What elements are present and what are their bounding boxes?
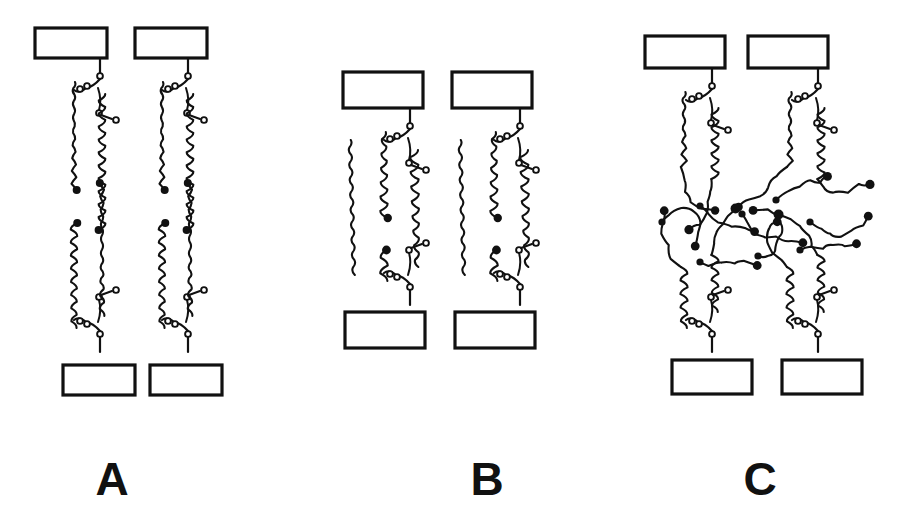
- panel-b-lipid-unit-2-upper-head-ester-oxygen-2: [497, 136, 503, 142]
- panel-c-free-chain-origin-methyl-5: [806, 218, 813, 225]
- panel-a-lipid-unit-2-lower-chain-sn1-terminal-methyl: [161, 219, 169, 227]
- panel-c-free-chain-origin-methyl-4: [772, 196, 779, 203]
- panel-c-lipid-unit-1-upper-head-ester-oxygen-1: [696, 93, 702, 99]
- panel-label-a: A: [95, 453, 128, 505]
- panel-c-lipid-unit-2-upper-head-ester-oxygen-1: [802, 93, 808, 99]
- panel-a-lipid-unit-1-lower-chain-sn2-terminal-methyl: [96, 179, 104, 187]
- panel-b-lipid-unit-2-lower-chain-sn1-terminal-methyl: [492, 246, 501, 255]
- panel-c-lipid-unit-1-upper-chain-sn2-terminal-methyl: [684, 225, 693, 234]
- panel-c-free-chain-origin-methyl-3: [738, 210, 745, 217]
- figure-root: ABC: [0, 0, 899, 532]
- panel-c-top-surface-block-1: [645, 36, 725, 68]
- panel-b-lipid-unit-1-lower-head-ester-oxygen-2: [387, 271, 393, 277]
- panel-c-bottom-surface-block-1: [672, 360, 752, 394]
- panel-c-lipid-unit-1-upper-head-carbonyl-oxygen-b: [725, 127, 731, 133]
- panel-c-lipid-unit-2-lower-head-ester-oxygen-1: [802, 321, 808, 327]
- panel-a-lipid-unit-1-lower-chain-sn1-terminal-methyl: [73, 219, 81, 227]
- panel-c-bottom-surface-block-2: [782, 360, 862, 394]
- panel-b-lipid-unit-1-upper-head-ester-oxygen-1: [394, 133, 400, 139]
- panel-label-c: C: [743, 453, 776, 505]
- panel-c-free-chain-origin-methyl-2: [696, 202, 703, 209]
- panel-b-lipid-unit-1-lower-chain-sn1-terminal-methyl: [382, 246, 391, 255]
- panel-b-lipid-unit-2-lower-head-carbonyl-oxygen-b: [533, 240, 539, 246]
- panel-b-lipid-unit-1-lower-head-carbonyl-oxygen-b: [423, 240, 429, 246]
- panel-c-free-chain-origin-methyl-7: [754, 252, 761, 259]
- panel-a-top-surface-block-1: [35, 28, 107, 58]
- panel-a-lipid-unit-2-lower-head-ester-oxygen-2: [165, 318, 171, 324]
- panel-b-top-surface-block-1: [343, 72, 423, 108]
- panel-a-top-surface-block-2: [135, 28, 207, 58]
- panel-a-lipid-unit-2-lower-head-ester-oxygen-1: [172, 321, 178, 327]
- panel-c-free-chain-terminal-methyl-7: [749, 206, 758, 215]
- panel-a-lipid-unit-1-lower-head-carbonyl-oxygen-b: [113, 287, 119, 293]
- panel-c-lipid-unit-2-lower-head-ester-oxygen-2: [795, 318, 801, 324]
- panel-c-lipid-unit-1-lower-head-ester-oxygen-2: [689, 318, 695, 324]
- panel-c-lipid-unit-1-lower-head-ester-oxygen-1: [696, 321, 702, 327]
- panel-a-lipid-unit-2-lower-chain-sn2-terminal-methyl: [184, 179, 192, 187]
- panel-c-lipid-unit-1-lower-head-carbonyl-oxygen-b: [725, 287, 731, 293]
- panel-a-lipid-unit-1-lower-head-ester-oxygen-1: [84, 321, 90, 327]
- panel-b-lipid-unit-2-upper-chain-sn1-terminal-methyl: [494, 214, 502, 222]
- panel-c-lipid-unit-2-upper-head-ester-oxygen-2: [795, 96, 801, 102]
- panel-c-free-chain-origin-methyl-8: [796, 246, 803, 253]
- panel-a-bottom-surface-block-1: [63, 365, 135, 395]
- panel-a-lipid-unit-1-upper-head-ester-oxygen-2: [77, 86, 83, 92]
- panel-a-lipid-unit-2-upper-head-ester-oxygen-2: [165, 86, 171, 92]
- panel-b-top-surface-block-2: [452, 72, 532, 108]
- panel-c-lipid-unit-2-upper-chain-sn1-terminal-methyl: [734, 203, 742, 211]
- panel-b-lipid-unit-2-upper-head-ester-oxygen-1: [504, 133, 510, 139]
- panel-a-lipid-unit-2-lower-head-carbonyl-oxygen-b: [201, 287, 207, 293]
- panel-b-bottom-surface-block-1: [345, 312, 425, 348]
- panel-label-b: B: [470, 453, 503, 505]
- panel-c-free-chain-origin-methyl-6: [696, 258, 703, 265]
- panel-c-lipid-unit-1-lower-chain-sn1-terminal-methyl: [660, 206, 669, 215]
- panel-b-lipid-unit-1-upper-head-carbonyl-oxygen-b: [423, 167, 429, 173]
- lipid-bilayer-figure: ABC: [0, 0, 899, 532]
- panel-b-lipid-unit-1-upper-head-ester-oxygen-2: [387, 136, 393, 142]
- panel-a-lipid-unit-1-upper-head-carbonyl-oxygen-b: [113, 117, 119, 123]
- panel-c-lipid-unit-1-upper-head-ester-oxygen-2: [689, 96, 695, 102]
- panel-c-free-chain-terminal-methyl-3: [798, 238, 807, 247]
- panel-a-lipid-unit-1-upper-chain-sn1-terminal-methyl: [73, 186, 81, 194]
- panel-b-lipid-unit-2-lower-head-ester-oxygen-2: [497, 271, 503, 277]
- panel-c-free-chain-terminal-methyl-5: [864, 212, 873, 221]
- panel-c-free-chain-terminal-methyl-6: [753, 261, 762, 270]
- panel-c-free-chain-terminal-methyl-4: [823, 172, 832, 181]
- panel-b-bottom-surface-block-2: [455, 312, 535, 348]
- panel-c-free-chain-terminal-methyl-8: [852, 239, 861, 248]
- panel-c-free-chain-terminal-methyl-1: [691, 242, 700, 251]
- panel-a-lipid-unit-1-upper-head-ester-oxygen-1: [84, 83, 90, 89]
- panel-a-bottom-surface-block-2: [150, 365, 222, 395]
- panel-c-free-chain-origin-methyl-1: [658, 218, 665, 225]
- panel-a-lipid-unit-1-lower-head-ester-oxygen-2: [77, 318, 83, 324]
- panel-a-lipid-unit-2-upper-head-ester-oxygen-1: [172, 83, 178, 89]
- panel-b-lipid-unit-2-upper-head-carbonyl-oxygen-b: [533, 167, 539, 173]
- panel-b-lipid-unit-1-lower-head-ester-oxygen-1: [394, 274, 400, 280]
- panel-c-lipid-unit-1-upper-chain-sn1-terminal-methyl: [711, 206, 719, 214]
- panel-c-lipid-unit-2-lower-head-carbonyl-oxygen-b: [831, 287, 837, 293]
- panel-a-lipid-unit-2-upper-head-carbonyl-oxygen-b: [201, 117, 207, 123]
- panel-b-lipid-unit-1-upper-chain-sn1-terminal-methyl: [384, 214, 392, 222]
- panel-b-lipid-unit-2-lower-head-ester-oxygen-1: [504, 274, 510, 280]
- panel-c-top-surface-block-2: [748, 36, 828, 68]
- panel-c-lipid-unit-2-upper-head-carbonyl-oxygen-b: [831, 127, 837, 133]
- panel-c-lipid-unit-2-upper-chain-sn2-terminal-methyl: [865, 180, 874, 189]
- panel-a-lipid-unit-2-upper-chain-sn1-terminal-methyl: [161, 186, 169, 194]
